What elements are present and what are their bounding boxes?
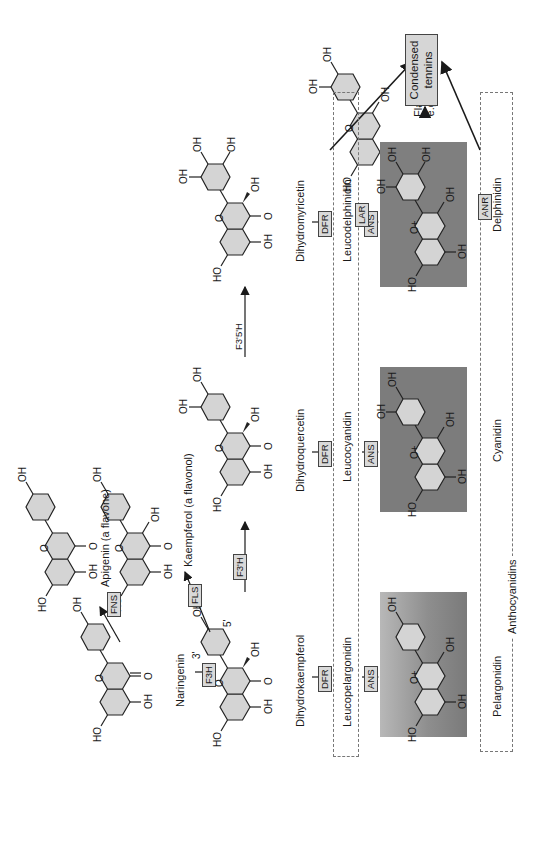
cyanidin-structure: HO OH OH O+ OH OH xyxy=(376,372,468,517)
svg-text:O+: O+ xyxy=(409,220,420,234)
svg-text:HO: HO xyxy=(407,502,418,517)
label-cyanidin: Cyanidin xyxy=(492,419,503,462)
svg-text:O+: O+ xyxy=(409,670,420,684)
svg-text:OH: OH xyxy=(421,147,432,162)
svg-text:OH: OH xyxy=(376,179,387,194)
enzyme-lar: LAR xyxy=(355,203,369,227)
enzyme-fns: FNS xyxy=(107,592,121,617)
svg-text:HO: HO xyxy=(407,727,418,742)
enzyme-f3h: F3H xyxy=(202,663,216,687)
pelargonidin-structure: HO OH OH O+ OH xyxy=(387,597,468,742)
svg-text:OH: OH xyxy=(387,147,398,162)
label-anthocyanidins: Anthocyanidins xyxy=(507,556,518,637)
svg-text:OH: OH xyxy=(457,469,468,484)
pathway-diagram: HO OH O O OH HO OH O O OH xyxy=(0,0,537,852)
svg-text:OH: OH xyxy=(445,637,456,652)
svg-text:OH: OH xyxy=(387,597,398,612)
svg-text:OH: OH xyxy=(457,694,468,709)
enzyme-ans-2: ANS xyxy=(364,441,378,467)
enzyme-ans-1: ANS xyxy=(364,666,378,692)
svg-text:O+: O+ xyxy=(409,445,420,459)
enzyme-fls: FLS xyxy=(188,584,202,607)
svg-text:OH: OH xyxy=(376,404,387,419)
delphinidin-structure: HO OH OH O+ OH OH OH xyxy=(376,147,468,292)
tannins-line-2: tennins xyxy=(422,51,435,88)
svg-text:OH: OH xyxy=(387,372,398,387)
enzyme-dfr-2: DFR xyxy=(318,441,332,467)
enzyme-anr: ANR xyxy=(478,194,492,220)
svg-text:OH: OH xyxy=(457,244,468,259)
svg-text:OH: OH xyxy=(445,412,456,427)
tannins-line-1: Condensed xyxy=(408,41,421,100)
condensed-tannins-box: Condensed tennins xyxy=(405,34,438,106)
enzyme-f3prime-h: F3'H xyxy=(233,554,247,580)
enzyme-dfr-3: DFR xyxy=(318,211,332,237)
svg-text:HO: HO xyxy=(407,277,418,292)
label-pelargonidin: Pelargonidin xyxy=(492,656,503,717)
enzyme-dfr-1: DFR xyxy=(318,666,332,692)
svg-text:OH: OH xyxy=(445,187,456,202)
enzyme-f3prime5prime-h: F3'5'H xyxy=(233,321,245,352)
anthocyanidin-structures: HO OH OH O+ OH HO OH OH O+ OH OH xyxy=(0,0,537,852)
label-delphinidin: Delphinidin xyxy=(492,178,503,232)
